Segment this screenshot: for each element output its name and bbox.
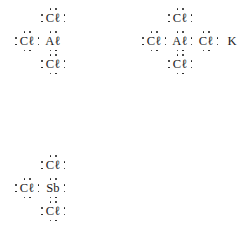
- valence-dot-bottom-right: [156, 50, 158, 52]
- atom-chlorine-top: Cℓ: [167, 10, 193, 27]
- structure-row-middle-row: CℓAℓCℓK: [141, 33, 237, 50]
- structure-row-bottom-row: Cℓ: [14, 56, 66, 73]
- atom-symbol: Cℓ: [40, 157, 66, 174]
- atom-symbol: Aℓ: [167, 33, 193, 50]
- valence-dot-left-top: [15, 184, 17, 186]
- valence-dot-top-right: [55, 201, 57, 203]
- atom-chlorine-bottom: Cℓ: [40, 56, 66, 73]
- atom-aluminum-center: Aℓ: [167, 33, 193, 50]
- valence-dot-left-top: [41, 161, 43, 163]
- structure-row-top-row: Cℓ: [141, 10, 237, 27]
- atom-symbol: Cℓ: [40, 203, 66, 220]
- structure-row-bottom-row: Cℓ: [14, 203, 66, 220]
- lewis-structure-aluminum-trichloride: CℓCℓAℓCℓ: [14, 10, 66, 73]
- structure-row-top-row: Cℓ: [14, 10, 66, 27]
- atom-chlorine-left: Cℓ: [14, 33, 40, 50]
- valence-dot-bottom-right: [182, 73, 184, 75]
- lewis-structure-antimony-trichloride: CℓCℓSbCℓ: [14, 157, 66, 220]
- layout-spacer: [141, 10, 167, 27]
- layout-spacer: [14, 203, 40, 220]
- atom-potassium: K: [219, 33, 237, 50]
- atom-chlorine-left: Cℓ: [14, 180, 40, 197]
- valence-dot-left-top: [41, 60, 43, 62]
- valence-dot-top-right: [182, 31, 184, 33]
- atom-chlorine-left: Cℓ: [141, 33, 167, 50]
- valence-dot-bottom-right: [208, 50, 210, 52]
- valence-dot-top-right: [29, 31, 31, 33]
- lewis-structure-potassium-tetrachloroaluminate: CℓCℓAℓCℓKCℓ: [141, 10, 237, 73]
- valence-dot-bottom-right: [55, 50, 57, 52]
- valence-dot-left-top: [41, 14, 43, 16]
- atom-symbol: Cℓ: [40, 56, 66, 73]
- layout-spacer: [14, 56, 40, 73]
- atom-symbol: Cℓ: [167, 10, 193, 27]
- valence-dot-top-right: [55, 31, 57, 33]
- atom-symbol: Cℓ: [14, 33, 40, 50]
- valence-dot-left-top: [15, 37, 17, 39]
- valence-dot-top-right: [55, 178, 57, 180]
- valence-dot-left-top: [41, 207, 43, 209]
- valence-dot-top-right: [208, 31, 210, 33]
- valence-dot-bottom-right: [29, 50, 31, 52]
- structure-row-middle-row: CℓAℓ: [14, 33, 66, 50]
- atom-chlorine-top: Cℓ: [40, 157, 66, 174]
- atom-symbol: K: [219, 33, 237, 50]
- valence-dot-top-right: [55, 155, 57, 157]
- layout-spacer: [141, 56, 167, 73]
- valence-dot-bottom-right: [55, 73, 57, 75]
- atom-symbol: Cℓ: [14, 180, 40, 197]
- valence-dot-left-top: [168, 14, 170, 16]
- structure-row-middle-row: CℓSb: [14, 180, 66, 197]
- valence-dot-top-right: [156, 31, 158, 33]
- atom-antimony-center: Sb: [40, 180, 66, 197]
- layout-spacer: [14, 157, 40, 174]
- lewis-structure-canvas: CℓCℓAℓCℓCℓCℓAℓCℓKCℓCℓCℓSbCℓ: [0, 0, 237, 246]
- valence-dot-top-right: [182, 8, 184, 10]
- atom-symbol: Cℓ: [167, 56, 193, 73]
- layout-spacer: [14, 10, 40, 27]
- atom-chlorine-bottom: Cℓ: [167, 56, 193, 73]
- atom-symbol: Aℓ: [40, 33, 66, 50]
- atom-chlorine-bottom: Cℓ: [40, 203, 66, 220]
- atom-symbol: Sb: [40, 180, 66, 197]
- valence-dot-bottom-right: [182, 50, 184, 52]
- valence-dot-left-top: [168, 60, 170, 62]
- atom-symbol: Cℓ: [40, 10, 66, 27]
- atom-symbol: Cℓ: [141, 33, 167, 50]
- atom-aluminum-center: Aℓ: [40, 33, 66, 50]
- valence-dot-top-right: [55, 54, 57, 56]
- atom-chlorine-right: Cℓ: [193, 33, 219, 50]
- valence-dot-top-right: [29, 178, 31, 180]
- valence-dot-bottom-right: [29, 197, 31, 199]
- valence-dot-bottom-right: [55, 197, 57, 199]
- valence-dot-top-right: [55, 8, 57, 10]
- valence-dot-left-top: [142, 37, 144, 39]
- valence-dot-bottom-right: [55, 220, 57, 222]
- atom-symbol: Cℓ: [193, 33, 219, 50]
- atom-chlorine-top: Cℓ: [40, 10, 66, 27]
- valence-dot-top-right: [182, 54, 184, 56]
- structure-row-top-row: Cℓ: [14, 157, 66, 174]
- structure-row-bottom-row: Cℓ: [141, 56, 237, 73]
